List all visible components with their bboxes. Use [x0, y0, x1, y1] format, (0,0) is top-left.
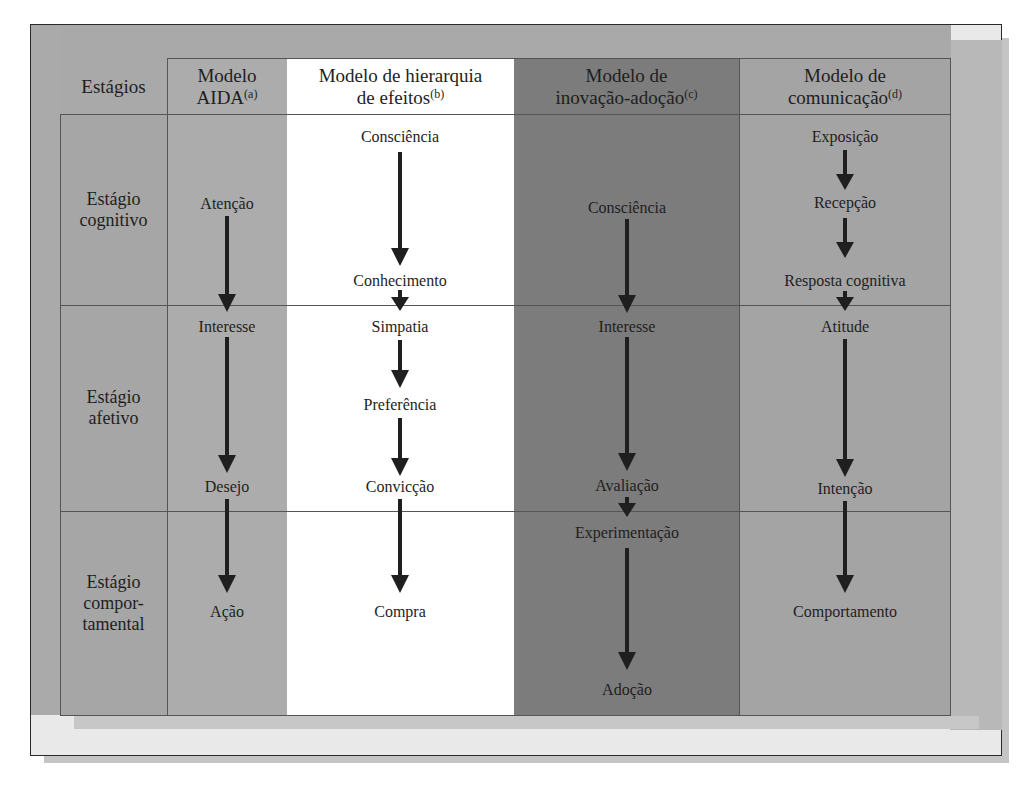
header-communication-line2: comunicação(d) [788, 85, 902, 107]
stage-affective: Estágio afetivo [60, 305, 167, 511]
stage-affective-line1: Estágio [87, 387, 141, 408]
header-divider [60, 114, 951, 115]
innovation-step: Adoção [602, 681, 652, 699]
communication-step: Resposta cognitiva [784, 272, 905, 290]
header-stages-label: Estágios [81, 77, 145, 96]
communication-step: Comportamento [793, 603, 897, 621]
row-divider-cognitive-affective [60, 305, 951, 306]
header-aida-line1: Modelo [197, 66, 256, 85]
header-stages: Estágios [60, 58, 167, 114]
header-hierarchy-line1: Modelo de hierarquia [319, 66, 483, 85]
header-hierarchy-line2: de efeitos(b) [357, 85, 444, 107]
stage-behavioral-line2: compor- [83, 593, 144, 614]
footnote-c: (c) [684, 87, 697, 101]
innovation-step: Consciência [588, 199, 666, 217]
hierarchy-step: Simpatia [372, 318, 429, 336]
header-hierarchy-title: de efeitos [357, 87, 430, 108]
innovation-step: Interesse [599, 318, 656, 336]
table-shadow [74, 716, 979, 729]
hierarchy-step: Compra [374, 603, 426, 621]
stage-cognitive-line2: cognitivo [80, 210, 148, 231]
communication-step: Exposição [812, 128, 879, 146]
header-innovation-line2: inovação-adoção(c) [555, 85, 697, 107]
frame-side-band [950, 40, 1002, 730]
stage-behavioral-line3: tamental [83, 614, 145, 635]
aida-step: Atenção [200, 195, 253, 213]
aida-step: Desejo [205, 478, 249, 496]
stage-affective-line2: afetivo [89, 408, 139, 429]
footnote-b: (b) [430, 87, 444, 101]
hierarchy-step: Preferência [364, 396, 437, 414]
header-aida-line2: AIDA(a) [197, 85, 258, 107]
header-innovation-line1: Modelo de [586, 66, 668, 85]
communication-step: Atitude [821, 318, 869, 336]
hierarchy-step: Conhecimento [353, 272, 446, 290]
stage-cognitive-line1: Estágio [87, 189, 141, 210]
stage-cognitive: Estágio cognitivo [60, 114, 167, 305]
frame-left-band [31, 25, 61, 715]
header-communication-title: comunicação [788, 87, 888, 108]
innovation-step: Avaliação [595, 477, 659, 495]
header-aida: Modelo AIDA(a) [167, 58, 287, 114]
header-hierarchy: Modelo de hierarquia de efeitos(b) [287, 58, 514, 114]
communication-step: Intenção [817, 480, 872, 498]
row-divider-affective-behavioral [60, 511, 951, 512]
header-aida-title: AIDA [197, 87, 245, 108]
header-communication: Modelo de comunicação(d) [739, 58, 951, 114]
footnote-d: (d) [888, 87, 902, 101]
aida-step: Ação [210, 603, 244, 621]
communication-step: Recepção [814, 194, 876, 212]
footnote-a: (a) [244, 87, 257, 101]
stage-behavioral: Estágio compor- tamental [60, 511, 167, 716]
stage-behavioral-line1: Estágio [87, 572, 141, 593]
header-innovation-title: inovação-adoção [555, 87, 684, 108]
aida-step: Interesse [199, 318, 256, 336]
header-innovation: Modelo de inovação-adoção(c) [514, 58, 739, 114]
innovation-step: Experimentação [575, 524, 679, 542]
hierarchy-step: Convicção [366, 478, 434, 496]
header-communication-line1: Modelo de [804, 66, 886, 85]
hierarchy-step: Consciência [361, 128, 439, 146]
